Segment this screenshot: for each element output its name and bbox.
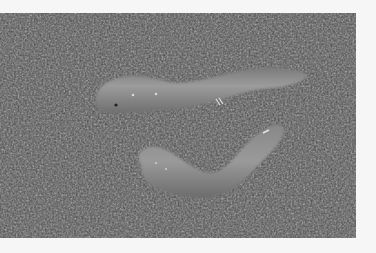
photograph (0, 13, 356, 238)
gravel-background (0, 13, 356, 238)
